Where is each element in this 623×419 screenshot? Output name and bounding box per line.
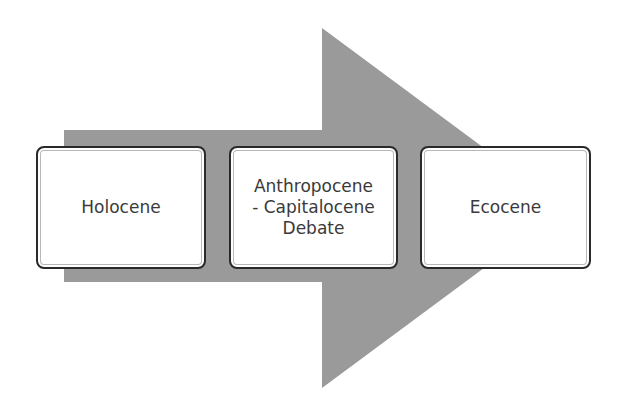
step-label: Ecocene — [470, 197, 542, 218]
step-box-anthropocene-capitalocene-debate: Anthropocene - Capitalocene Debate — [229, 146, 398, 269]
step-label: Holocene — [81, 197, 160, 218]
step-label: Anthropocene - Capitalocene Debate — [252, 176, 375, 239]
step-box-holocene: Holocene — [36, 146, 206, 269]
step-box-ecocene: Ecocene — [420, 146, 591, 269]
